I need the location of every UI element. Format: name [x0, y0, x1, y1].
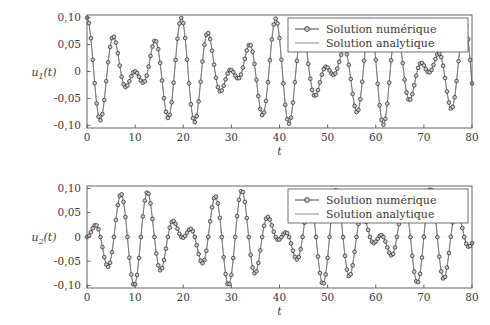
figure-canvas: 010203040506070800,100,050-0,05-0,10tu1(… — [0, 0, 490, 325]
y-tick-label: 0,05 — [58, 206, 81, 218]
legend-label-analytic: Solution analytique — [326, 208, 434, 221]
y-tick-label: -0,05 — [54, 255, 81, 267]
x-axis-label: t — [277, 305, 282, 318]
x-tick-label: 10 — [128, 291, 141, 303]
x-tick-label: 0 — [84, 291, 91, 303]
y-tick-label: -0,10 — [54, 279, 81, 291]
x-tick-label: 50 — [321, 291, 334, 303]
x-tick-label: 70 — [417, 291, 430, 303]
legend-label-numeric: Solution numérique — [326, 194, 436, 207]
x-tick-label: 80 — [465, 291, 478, 303]
x-tick-label: 20 — [177, 291, 190, 303]
x-tick-label: 30 — [225, 291, 238, 303]
x-tick-label: 60 — [369, 291, 382, 303]
legend: Solution numériqueSolution analytique — [288, 189, 468, 223]
y-tick-label: 0,10 — [58, 182, 81, 194]
legend-marker-numeric — [305, 198, 310, 203]
y-tick-label: 0 — [74, 231, 81, 243]
y-axis-label: u2(t) — [31, 231, 56, 246]
subplot-u2: 010203040506070800,100,050-0,05-0,10tu2(… — [0, 0, 490, 325]
x-tick-label: 40 — [273, 291, 286, 303]
